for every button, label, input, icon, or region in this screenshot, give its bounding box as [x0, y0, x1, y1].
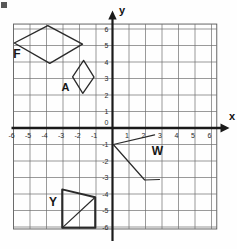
x-tick-6: 6: [208, 132, 212, 139]
x-tick-5: 5: [191, 132, 195, 139]
y-tick--4: -4: [102, 191, 108, 198]
y-tick-4: 4: [105, 59, 109, 66]
x-tick-4: 4: [175, 132, 179, 139]
coordinate-grid: xy-6-5-4-3-2-11234566543210-1-2-3-4-5-6F…: [0, 0, 237, 249]
shape-label-A: A: [61, 81, 69, 93]
shape-Y-diagonal: [62, 197, 95, 228]
scan-artifacts: [1, 2, 7, 8]
shape-A: A: [61, 60, 94, 93]
x-tick-1: 1: [125, 132, 129, 139]
y-tick--6: -6: [102, 224, 108, 231]
scan-mark-top-left: [1, 2, 7, 8]
x-axis-arrow-icon: [221, 124, 230, 133]
y-axis-label: y: [119, 4, 126, 16]
x-tick--1: -1: [91, 132, 97, 139]
shape-label-W: W: [152, 144, 164, 158]
y-tick--1: -1: [102, 141, 108, 148]
y-tick-1: 1: [105, 108, 109, 115]
y-tick--3: -3: [102, 174, 108, 181]
y-tick--5: -5: [102, 207, 108, 214]
grid-lines: [14, 24, 217, 229]
y-tick-5: 5: [105, 42, 109, 49]
y-tick-0: 0: [105, 119, 109, 126]
shape-W: W: [113, 135, 163, 180]
x-tick--3: -3: [58, 132, 64, 139]
worksheet-figure: xy-6-5-4-3-2-11234566543210-1-2-3-4-5-6F…: [0, 0, 237, 249]
shape-label-Y: Y: [49, 195, 57, 209]
shape-label-F: F: [13, 47, 20, 61]
y-tick--2: -2: [102, 158, 108, 165]
y-tick-3: 3: [105, 75, 109, 82]
x-tick--5: -5: [25, 132, 31, 139]
y-tick-6: 6: [105, 26, 109, 33]
x-tick-labels: -6-5-4-3-2-1123456: [8, 132, 211, 139]
y-tick-2: 2: [105, 92, 109, 99]
shape-F: F: [13, 26, 82, 64]
axis-labels: xy: [119, 4, 236, 122]
x-tick--2: -2: [74, 132, 80, 139]
y-axis-arrow-icon: [108, 11, 116, 20]
x-axis-label: x: [229, 110, 236, 122]
x-tick--4: -4: [41, 132, 47, 139]
x-tick--6: -6: [8, 132, 14, 139]
shape-Y: Y: [49, 189, 95, 227]
x-tick-3: 3: [158, 132, 162, 139]
y-axis: [108, 11, 116, 242]
